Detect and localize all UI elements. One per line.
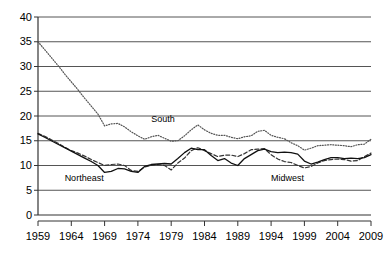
y-tick-label: 25 [4, 86, 32, 97]
y-tick-label: 35 [4, 36, 32, 47]
series-annotation-northeast: Northeast [65, 174, 104, 183]
y-tick-label: 5 [4, 185, 32, 196]
series-line-south [38, 42, 371, 150]
y-tick-label: 30 [4, 61, 32, 72]
y-tick-label: 40 [4, 12, 32, 23]
y-tick-label: 20 [4, 111, 32, 122]
y-tick-label: 15 [4, 135, 32, 146]
chart-plot-area [0, 0, 389, 254]
y-tick-label: 10 [4, 160, 32, 171]
series-annotation-midwest: Midwest [271, 174, 304, 183]
poverty-rate-line-chart: 0510152025303540 19591964196919741979198… [0, 0, 389, 254]
data-series-lines [38, 42, 371, 173]
y-tick-label: 0 [4, 210, 32, 221]
series-annotation-south: South [151, 115, 175, 124]
x-axis-ticks [34, 17, 371, 226]
y-gridlines [38, 17, 371, 190]
x-tick-label: 2009 [351, 231, 389, 242]
series-line-northeast [38, 134, 371, 173]
